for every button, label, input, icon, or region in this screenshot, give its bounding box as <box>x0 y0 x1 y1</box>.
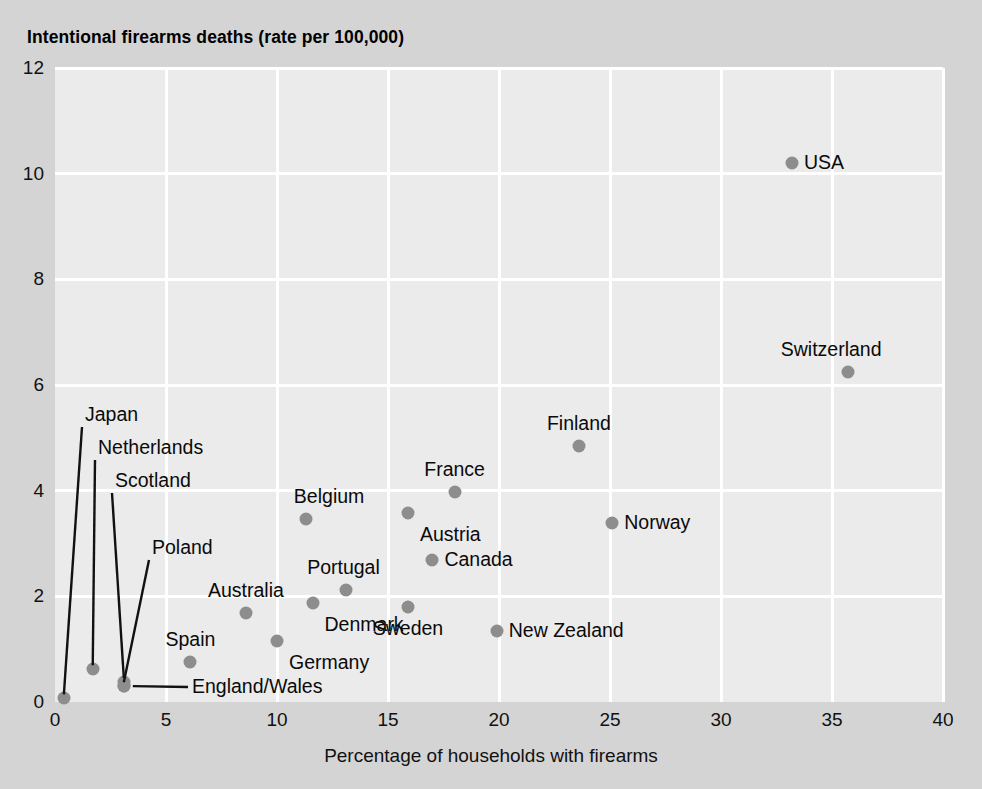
data-point[interactable] <box>57 692 70 705</box>
data-point[interactable] <box>448 486 461 499</box>
x-tick-label: 35 <box>802 709 862 731</box>
data-point-label: England/Wales <box>192 677 322 697</box>
data-point[interactable] <box>306 596 319 609</box>
x-tick-label: 0 <box>25 709 85 731</box>
x-tick-label: 40 <box>913 709 973 731</box>
x-tick-label: 30 <box>691 709 751 731</box>
data-point[interactable] <box>841 365 854 378</box>
data-point-label: Canada <box>444 551 512 571</box>
data-point[interactable] <box>239 606 252 619</box>
data-point[interactable] <box>117 680 130 693</box>
data-point-label: Austria <box>420 525 481 545</box>
gridline-horizontal <box>55 384 943 387</box>
data-point[interactable] <box>401 506 414 519</box>
gridline-horizontal <box>55 67 943 70</box>
data-point[interactable] <box>572 439 585 452</box>
data-point-label: Portugal <box>307 558 380 578</box>
data-point-label: Germany <box>289 653 369 673</box>
data-point[interactable] <box>339 583 352 596</box>
data-point[interactable] <box>184 656 197 669</box>
data-point-label: Norway <box>624 514 690 534</box>
x-axis-title: Percentage of households with firearms <box>0 745 982 767</box>
data-point-label: Poland <box>152 538 213 558</box>
chart-title: Intentional firearms deaths (rate per 10… <box>27 27 404 48</box>
y-tick-label: 12 <box>0 57 44 79</box>
data-point[interactable] <box>271 635 284 648</box>
data-point[interactable] <box>786 157 799 170</box>
data-point[interactable] <box>86 663 99 676</box>
data-point[interactable] <box>606 517 619 530</box>
y-tick-label: 2 <box>0 585 44 607</box>
data-point-label: France <box>424 461 485 481</box>
data-point-label: Australia <box>208 581 284 601</box>
y-tick-label: 4 <box>0 480 44 502</box>
data-point-label: USA <box>804 153 844 173</box>
gridline-horizontal <box>55 278 943 281</box>
data-point-label: Scotland <box>115 471 191 491</box>
x-tick-label: 10 <box>247 709 307 731</box>
y-tick-label: 6 <box>0 374 44 396</box>
x-tick-label: 5 <box>136 709 196 731</box>
y-tick-label: 10 <box>0 163 44 185</box>
x-tick-label: 20 <box>469 709 529 731</box>
data-point-label: Finland <box>547 414 611 434</box>
data-point-label: Switzerland <box>781 340 882 360</box>
data-point-label: Japan <box>85 405 138 425</box>
x-tick-label: 25 <box>580 709 640 731</box>
x-tick-label: 15 <box>358 709 418 731</box>
data-point-label: Sweden <box>373 619 443 639</box>
y-tick-label: 8 <box>0 268 44 290</box>
gridline-horizontal <box>55 595 943 598</box>
data-point-label: Belgium <box>294 487 364 507</box>
data-point[interactable] <box>426 554 439 567</box>
data-point[interactable] <box>490 625 503 638</box>
data-point-label: Netherlands <box>98 438 203 458</box>
data-point-label: Spain <box>165 631 215 651</box>
data-point[interactable] <box>299 512 312 525</box>
chart-figure: Intentional firearms deaths (rate per 10… <box>0 0 982 789</box>
data-point-label: New Zealand <box>509 621 624 641</box>
data-point[interactable] <box>401 600 414 613</box>
